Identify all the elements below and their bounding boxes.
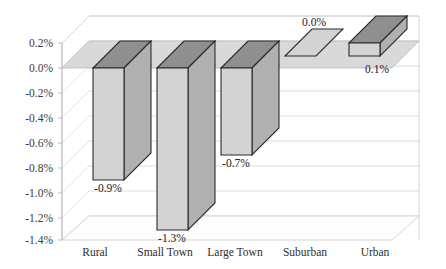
y-tick-label-6: -1.0% xyxy=(25,187,53,199)
y-tick-label-2: -0.2% xyxy=(25,87,53,99)
data-label-suburban: 0.0% xyxy=(302,16,326,28)
bar-small-town[interactable] xyxy=(157,41,215,230)
bar-rural[interactable] xyxy=(93,41,151,180)
x-axis-category-labels: Rural Small Town Large Town Suburban Urb… xyxy=(82,246,389,259)
bar-chart-3d: 0.2% 0.0% -0.2% -0.4% -0.6% -0.8% -1.0% … xyxy=(0,0,446,269)
y-axis xyxy=(58,43,62,240)
x-label-small-town: Small Town xyxy=(137,246,193,258)
x-label-rural: Rural xyxy=(82,246,108,258)
y-tick-label-4: -0.6% xyxy=(25,137,53,149)
y-tick-label-8: -1.4% xyxy=(25,234,53,246)
y-tick-label-7: -1.2% xyxy=(25,212,53,224)
y-tick-label-0: 0.2% xyxy=(29,37,53,49)
data-label-urban: 0.1% xyxy=(365,63,389,75)
y-tick-label-3: -0.4% xyxy=(25,112,53,124)
y-tick-label-5: -0.8% xyxy=(25,162,53,174)
chart-base-floor xyxy=(62,216,419,240)
data-label-small-town: -1.3% xyxy=(158,232,186,244)
y-tick-label-1: 0.0% xyxy=(29,62,53,74)
chart-container: 0.2% 0.0% -0.2% -0.4% -0.6% -0.8% -1.0% … xyxy=(0,0,446,269)
x-label-large-town: Large Town xyxy=(207,246,263,259)
x-label-suburban: Suburban xyxy=(283,246,327,258)
data-label-large-town: -0.7% xyxy=(222,157,250,169)
data-label-rural: -0.9% xyxy=(94,182,122,194)
y-axis-tick-labels: 0.2% 0.0% -0.2% -0.4% -0.6% -0.8% -1.0% … xyxy=(25,37,53,246)
x-label-urban: Urban xyxy=(361,246,390,258)
